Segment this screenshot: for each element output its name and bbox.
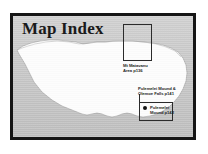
page-title: Map Index [22,19,104,39]
inset-box-matavanu[interactable] [123,24,152,61]
site-marker-dot-icon [143,106,147,110]
inset-label-matavanu: Mt Matavanu Area p136 [123,63,163,73]
map-plate-frame: Map Index Mt Matavanu Area p136 Pulemele… [10,13,196,140]
inset-label-pulemelei-falls: Pulemelei Mound & Olemoe Falls p141 [138,86,186,96]
site-label-pulemelei-mound: Pulemelei Mound p142 [150,105,178,115]
scanned-page: Map Index Mt Matavanu Area p136 Pulemele… [0,0,208,154]
